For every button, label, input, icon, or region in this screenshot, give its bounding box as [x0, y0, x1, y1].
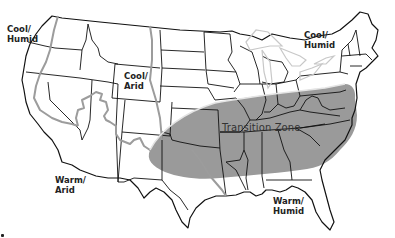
region-label-line: Arid: [124, 81, 148, 91]
region-label-line: Cool/: [7, 24, 38, 34]
region-label-line: Humid: [7, 34, 38, 44]
region-label-cool-humid-east: Cool/ Humid: [304, 30, 335, 50]
region-label-line: Humid: [304, 40, 335, 50]
transition-zone-label: Transition Zone: [222, 122, 301, 133]
corner-mark: [1, 234, 4, 237]
region-label-line: Cool/: [124, 71, 148, 81]
region-label-warm-humid: Warm/ Humid: [273, 196, 304, 216]
region-label-line: Warm/: [273, 196, 304, 206]
region-label-warm-arid: Warm/ Arid: [55, 175, 86, 195]
region-label-cool-arid: Cool/ Arid: [124, 71, 148, 91]
region-label-line: Cool/: [304, 30, 335, 40]
region-label-cool-humid-west: Cool/ Humid: [7, 24, 38, 44]
region-label-line: Humid: [273, 206, 304, 216]
us-climate-map: [0, 0, 395, 238]
region-label-line: Warm/: [55, 175, 86, 185]
region-label-line: Arid: [55, 185, 86, 195]
